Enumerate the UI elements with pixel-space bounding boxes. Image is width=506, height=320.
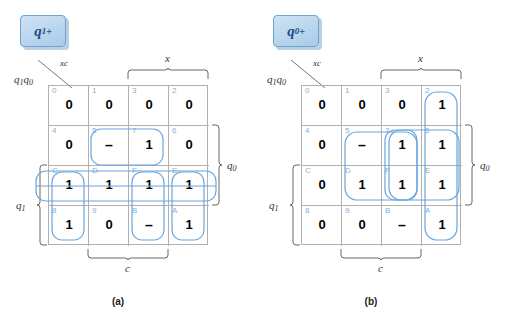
kmap-cell[interactable]: 40 (302, 126, 342, 166)
kmap-cell[interactable]: 10 (89, 86, 129, 126)
cell-value: 0 (342, 217, 382, 232)
axis-label-c-a: c (125, 262, 130, 274)
corner-q-sub-2: 0 (29, 78, 33, 87)
kmap-cell[interactable]: 5– (342, 126, 382, 166)
cell-value: 1 (382, 137, 422, 152)
corner-bottom-label-a: q1q0 (14, 73, 33, 87)
kmap-cell[interactable]: 71 (129, 126, 169, 166)
kmap-cell[interactable]: 5– (89, 126, 129, 166)
cell-value: 0 (302, 217, 342, 232)
cell-value: 1 (49, 217, 89, 232)
cell-index: 3 (385, 86, 389, 95)
cell-index: C (305, 166, 311, 175)
output-badge-q1plus: q1+ (20, 15, 66, 47)
cell-index: B (132, 206, 137, 215)
kmap-cell[interactable]: 71 (382, 126, 422, 166)
cell-index: D (345, 166, 351, 175)
corner-top-label-a: xc (60, 58, 68, 68)
bracket-top-x-b (380, 68, 464, 80)
cell-index: 4 (52, 126, 56, 135)
kmap-cell[interactable]: C1 (49, 166, 89, 206)
axis-label-q1-a: q1 (16, 199, 26, 213)
cell-index: 1 (92, 86, 96, 95)
kmap-cell[interactable]: 00 (49, 86, 89, 126)
kmap-cell[interactable]: C0 (302, 166, 342, 206)
axis-label-x-a: x (165, 52, 170, 64)
kmap-cell[interactable]: D1 (342, 166, 382, 206)
cell-value: 1 (422, 137, 462, 152)
cell-index: 5 (345, 126, 349, 135)
cell-index: 2 (172, 86, 176, 95)
kmap-cell[interactable]: 60 (169, 126, 209, 166)
cell-value: 1 (422, 177, 462, 192)
kmap-cell[interactable]: B– (129, 206, 169, 246)
cell-index: 2 (425, 86, 429, 95)
cell-value: 0 (169, 97, 209, 112)
cell-index: E (425, 166, 430, 175)
kmap-cell[interactable]: A1 (422, 206, 462, 246)
kmap-cell[interactable]: 10 (342, 86, 382, 126)
caption-b: (b) (341, 296, 401, 307)
cell-value: 0 (89, 97, 129, 112)
kmap-cell[interactable]: 90 (342, 206, 382, 246)
cell-value: 0 (129, 97, 169, 112)
cell-index: 7 (385, 126, 389, 135)
kmap-cell[interactable]: 81 (49, 206, 89, 246)
bracket-bottom-c-b (340, 248, 424, 260)
cell-index: 0 (305, 86, 309, 95)
kmap-cell[interactable]: E1 (169, 166, 209, 206)
cell-value: 0 (382, 97, 422, 112)
kmap-cell[interactable]: F1 (382, 166, 422, 206)
kmap-cell[interactable]: 80 (302, 206, 342, 246)
kmap-cell[interactable]: D1 (89, 166, 129, 206)
kmap-cell[interactable]: 40 (49, 126, 89, 166)
cell-index: F (132, 166, 137, 175)
cell-value: 1 (129, 177, 169, 192)
kmap-cell[interactable]: E1 (422, 166, 462, 206)
kmap-cell[interactable]: 00 (302, 86, 342, 126)
cell-index: B (385, 206, 390, 215)
cell-value: 0 (89, 217, 129, 232)
kmap-cell[interactable]: 61 (422, 126, 462, 166)
kmap-a: q1+ xc q1q0 x q0 q1 (0, 0, 253, 320)
cell-value: – (129, 217, 169, 233)
cell-value: 1 (169, 217, 209, 232)
cell-value: 1 (169, 177, 209, 192)
cell-index: 6 (172, 126, 176, 135)
kmap-cell[interactable]: 21 (422, 86, 462, 126)
cell-index: E (172, 166, 177, 175)
cell-index: 4 (305, 126, 309, 135)
corner-bottom-label-b: q1q0 (267, 73, 286, 87)
bracket-right-q0-b (464, 124, 478, 208)
kmap-cell[interactable]: 20 (169, 86, 209, 126)
axis-label-x-b: x (418, 52, 423, 64)
bracket-top-x-a (127, 68, 211, 80)
kmap-grid-b: 00 10 30 21 40 5– 71 61 C0 D1 F1 E1 80 9… (301, 85, 461, 245)
cell-index: A (425, 206, 430, 215)
cell-index: 7 (132, 126, 136, 135)
badge-superscript: + (46, 26, 52, 37)
figure-canvas: q1+ xc q1q0 x q0 q1 (0, 0, 506, 320)
kmap-cell[interactable]: 30 (129, 86, 169, 126)
cell-index: 3 (132, 86, 136, 95)
kmap-cell[interactable]: 30 (382, 86, 422, 126)
cell-index: 0 (52, 86, 56, 95)
kmap-cell[interactable]: B– (382, 206, 422, 246)
cell-value: – (89, 137, 129, 153)
cell-index: 9 (92, 206, 96, 215)
kmap-cell[interactable]: F1 (129, 166, 169, 206)
cell-index: D (92, 166, 98, 175)
cell-value: 1 (129, 137, 169, 152)
cell-value: 1 (382, 177, 422, 192)
q1-sub-b: 1 (275, 204, 279, 213)
cell-index: 5 (92, 126, 96, 135)
cell-index: 1 (345, 86, 349, 95)
cell-index: 8 (52, 206, 56, 215)
kmap-cell[interactable]: 90 (89, 206, 129, 246)
cell-value: – (382, 217, 422, 233)
kmap-cell[interactable]: A1 (169, 206, 209, 246)
cell-value: 1 (89, 177, 129, 192)
cell-value: 0 (342, 97, 382, 112)
corner-top-label-b: xc (313, 58, 321, 68)
cell-value: 0 (302, 177, 342, 192)
